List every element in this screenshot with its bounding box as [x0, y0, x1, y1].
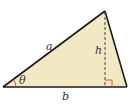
triangle-diagram: θ a h b [0, 0, 134, 104]
height-label: h [95, 44, 102, 57]
side-a-label: a [46, 40, 53, 53]
side-b-label: b [62, 90, 69, 103]
angle-label: θ [19, 74, 26, 87]
